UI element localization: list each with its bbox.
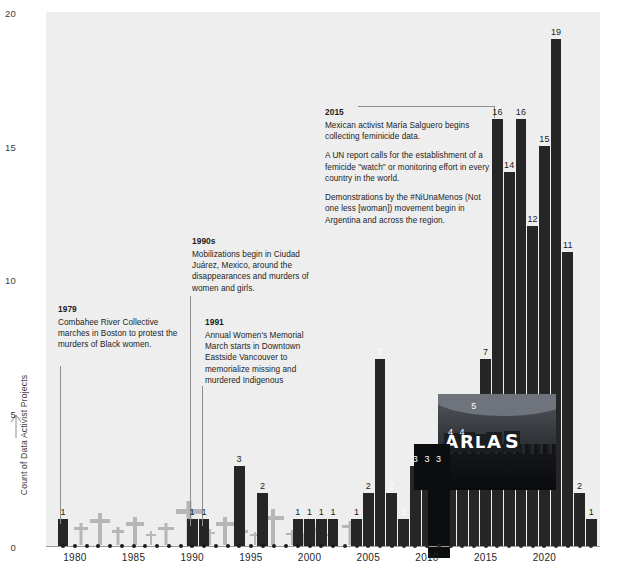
annotation-1979: 1979 Combahee River Collective marches i… [58, 304, 178, 351]
bar-label-2008: 1 [401, 507, 406, 517]
x-tick-dot-2021 [554, 544, 558, 548]
x-tick-dot-2002 [331, 544, 335, 548]
bar-2000 [304, 519, 315, 546]
bar-label-2016: 16 [492, 107, 502, 117]
leader-2015-h [358, 106, 494, 107]
bar-label-2010: 3 [424, 454, 429, 464]
x-tick-dot-1988 [167, 544, 171, 548]
bar-label-2024: 1 [589, 507, 594, 517]
x-tick-dot-2011 [437, 544, 441, 548]
bar-label-1994: 3 [237, 454, 242, 464]
bar-2022 [562, 252, 573, 546]
bar-label-2007: 2 [389, 481, 394, 491]
x-tick-dot-2010 [425, 544, 429, 548]
x-tick-label-1990: 1990 [180, 552, 203, 563]
x-tick-dot-2022 [566, 544, 570, 548]
x-tick-dot-1993 [226, 544, 230, 548]
bar-label-2020: 15 [539, 134, 549, 144]
x-tick-dot-2019 [531, 544, 535, 548]
annotation-1990s-year: 1990s [192, 236, 320, 248]
bar-label-2022: 11 [563, 240, 573, 250]
photo-sky [438, 394, 556, 416]
x-tick-dot-1982 [96, 544, 100, 548]
x-tick-label-1980: 1980 [63, 552, 86, 563]
y-axis-title: Count of Data Activist Projects [19, 325, 29, 545]
x-tick-dot-2003 [343, 544, 347, 548]
y-tick-15: 15 [0, 142, 16, 153]
bar-1994 [234, 466, 245, 546]
x-tick-dot-2020 [542, 544, 546, 548]
plot-area: 1113211111272133344571614161215191121 A … [46, 12, 600, 546]
bar-2004 [351, 519, 362, 546]
bar-label-2009: 3 [413, 454, 418, 464]
x-tick-dot-2009 [413, 544, 417, 548]
x-tick-dot-2016 [495, 544, 499, 548]
bar-2005 [363, 493, 374, 546]
photo-foreground [438, 454, 556, 490]
y-tick-20: 20 [0, 8, 16, 19]
x-tick-dot-1987 [155, 544, 159, 548]
annotation-1991-year: 1991 [205, 317, 325, 329]
y-tick-10: 10 [0, 275, 16, 286]
x-tick-dot-1985 [132, 544, 136, 548]
bar-label-2013: 4 [460, 427, 465, 437]
bar-label-2021: 19 [551, 27, 561, 37]
y-tick-5: 5 [0, 409, 16, 420]
bar-2023 [574, 493, 585, 546]
x-tick-label-1985: 1985 [122, 552, 145, 563]
bar-1999 [293, 519, 304, 546]
x-tick-dot-2015 [484, 544, 488, 548]
x-tick-dot-1984 [120, 544, 124, 548]
x-tick-label-2010: 2010 [415, 552, 438, 563]
annotation-2015-text-2: A UN report calls for the establishment … [325, 150, 495, 184]
x-tick-dot-1981 [85, 544, 89, 548]
x-tick-dot-2001 [319, 544, 323, 548]
x-tick-dot-2004 [355, 544, 359, 548]
bar-label-2005: 2 [366, 481, 371, 491]
annotation-1991: 1991 Annual Women's Memorial March start… [205, 317, 325, 386]
bar-label-2012: 4 [448, 427, 453, 437]
bar-2002 [328, 519, 339, 546]
x-tick-label-2020: 2020 [533, 552, 556, 563]
x-tick-dot-2005 [366, 544, 370, 548]
bar-label-2000: 1 [307, 507, 312, 517]
y-axis-title-wrap: Count of Data Activist Projects [0, 0, 34, 577]
x-tick-dot-1997 [272, 544, 276, 548]
annotation-1990s-text: Mobilizations begin in Ciudad Juárez, Me… [192, 249, 320, 294]
x-tick-dot-1979 [61, 544, 65, 548]
leader-1991 [202, 386, 203, 526]
x-axis-line [46, 546, 600, 547]
bar-label-2023: 2 [577, 481, 582, 491]
annotation-1979-year: 1979 [58, 304, 178, 316]
annotation-1979-text: Combahee River Collective marches in Bos… [58, 317, 178, 351]
x-tick-label-2000: 2000 [298, 552, 321, 563]
bar-1996 [257, 493, 268, 546]
annotation-1991-text: Annual Women's Memorial March starts in … [205, 330, 325, 387]
bar-label-1999: 1 [295, 507, 300, 517]
bar-label-2006: 7 [377, 347, 382, 357]
x-tick-dot-1980 [73, 544, 77, 548]
x-tick-label-2005: 2005 [357, 552, 380, 563]
x-tick-dot-1990 [190, 544, 194, 548]
x-tick-label-1995: 1995 [239, 552, 262, 563]
y-tick-0: 0 [0, 542, 16, 553]
bar-label-2004: 1 [354, 507, 359, 517]
bar-label-2014: 5 [471, 401, 476, 411]
annotation-2015-text-1: Mexican activist María Salguero begins c… [325, 120, 495, 143]
bar-label-2011: 3 [436, 454, 441, 464]
bar-label-2001: 1 [319, 507, 324, 517]
x-tick-dot-1983 [108, 544, 112, 548]
x-tick-dot-1992 [214, 544, 218, 548]
bar-label-1996: 2 [260, 481, 265, 491]
bar-label-1979: 1 [60, 507, 65, 517]
x-tick-dot-2014 [472, 544, 476, 548]
x-tick-dot-1995 [249, 544, 253, 548]
x-tick-dot-1999 [296, 544, 300, 548]
bar-2006 [375, 359, 386, 546]
bar-2024 [586, 519, 597, 546]
x-tick-dot-2018 [519, 544, 523, 548]
leader-1990s [190, 296, 191, 526]
bar-label-2019: 12 [527, 214, 537, 224]
x-tick-dot-2006 [378, 544, 382, 548]
x-tick-dot-1986 [143, 544, 147, 548]
